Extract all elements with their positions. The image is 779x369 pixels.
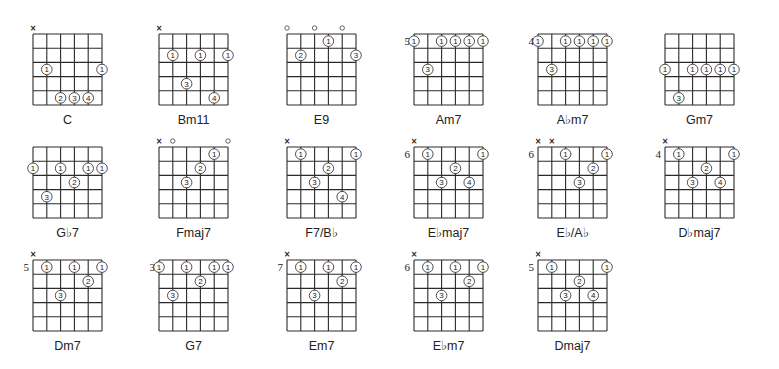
finger-marker: 2 — [296, 50, 307, 61]
finger-number: 3 — [72, 94, 77, 103]
finger-number: 1 — [72, 263, 77, 272]
fret-position-label: 5 — [529, 261, 535, 273]
fret-position-label: 6 — [529, 148, 535, 160]
finger-number: 2 — [299, 51, 304, 60]
finger-marker: 3 — [168, 290, 179, 301]
finger-marker: 2 — [195, 276, 206, 287]
finger-number: 3 — [426, 65, 431, 74]
finger-marker: 2 — [55, 93, 66, 104]
finger-marker: 3 — [181, 78, 192, 89]
finger-number: 1 — [467, 37, 472, 46]
finger-number: 1 — [536, 37, 541, 46]
finger-marker: 1 — [154, 262, 165, 273]
chord-name: C — [63, 113, 72, 127]
muted-string-icon: × — [156, 137, 163, 146]
finger-marker: 1 — [423, 149, 434, 160]
finger-number: 1 — [45, 263, 50, 272]
muted-string-icon: × — [535, 250, 542, 259]
finger-number: 3 — [577, 178, 582, 187]
finger-number: 1 — [563, 150, 568, 159]
fret-position-label: 5 — [24, 261, 30, 273]
chord-diagram: 6×11234E♭maj7 — [405, 137, 489, 241]
muted-string-icon: × — [662, 137, 669, 146]
finger-number: 3 — [439, 178, 444, 187]
chord-name: E♭maj7 — [428, 226, 469, 240]
finger-marker: 4 — [464, 177, 475, 188]
finger-marker: 3 — [309, 290, 320, 301]
finger-number: 1 — [718, 65, 723, 74]
finger-number: 3 — [184, 80, 189, 89]
finger-marker: 1 — [195, 50, 206, 61]
muted-string-icon: × — [284, 137, 291, 146]
chord-name: E♭m7 — [433, 339, 465, 353]
chord-diagram: 7×11123Em7 — [278, 250, 362, 354]
finger-number: 4 — [86, 94, 91, 103]
open-string-icon — [226, 139, 230, 143]
finger-marker: 1 — [28, 163, 39, 174]
finger-marker: 1 — [323, 36, 334, 47]
finger-marker: 2 — [323, 163, 334, 174]
finger-marker: 1 — [560, 149, 571, 160]
finger-marker: 3 — [574, 177, 585, 188]
muted-string-icon: × — [411, 250, 418, 259]
finger-number: 1 — [157, 263, 162, 272]
finger-number: 2 — [340, 277, 345, 286]
finger-number: 4 — [591, 291, 596, 300]
finger-marker: 1 — [209, 262, 220, 273]
finger-marker: 2 — [69, 177, 80, 188]
chord-diagram: 3111123G7 — [150, 260, 234, 353]
finger-number: 1 — [100, 164, 105, 173]
finger-marker: 2 — [574, 276, 585, 287]
finger-marker: 2 — [450, 163, 461, 174]
finger-marker: 1 — [478, 262, 489, 273]
finger-marker: 1 — [97, 262, 108, 273]
chord-chart-sheet: ×11234C×11134Bm11123E95111113Am74111113A… — [0, 0, 779, 369]
finger-number: 4 — [467, 178, 472, 187]
finger-number: 1 — [677, 150, 682, 159]
finger-number: 3 — [45, 193, 50, 202]
finger-number: 1 — [426, 263, 431, 272]
finger-marker: 3 — [674, 93, 685, 104]
finger-marker: 3 — [436, 290, 447, 301]
finger-number: 4 — [212, 94, 217, 103]
muted-string-icon: × — [548, 137, 555, 146]
muted-string-icon: × — [30, 24, 37, 33]
chord-name: G7 — [185, 339, 202, 353]
chord-diagram: ×11234C — [30, 24, 108, 128]
finger-marker: 1 — [588, 36, 599, 47]
finger-marker: 1 — [97, 64, 108, 75]
finger-number: 1 — [299, 150, 304, 159]
finger-number: 1 — [550, 263, 555, 272]
finger-number: 1 — [226, 51, 231, 60]
finger-number: 1 — [86, 164, 91, 173]
finger-number: 2 — [198, 277, 203, 286]
open-string-icon — [340, 26, 344, 30]
finger-marker: 1 — [423, 262, 434, 273]
finger-marker: 1 — [181, 262, 192, 273]
finger-marker: 1 — [478, 36, 489, 47]
finger-number: 1 — [453, 37, 458, 46]
muted-string-icon: × — [30, 250, 37, 259]
finger-marker: 1 — [464, 36, 475, 47]
finger-marker: 1 — [602, 36, 613, 47]
chord-name: Fmaj7 — [176, 226, 211, 240]
finger-number: 1 — [577, 37, 582, 46]
chord-diagram: ×123Fmaj7 — [156, 137, 231, 241]
finger-number: 1 — [732, 150, 737, 159]
finger-number: 2 — [326, 164, 331, 173]
finger-marker: 2 — [337, 276, 348, 287]
finger-number: 1 — [481, 263, 486, 272]
finger-number: 2 — [58, 94, 63, 103]
finger-marker: 1 — [351, 262, 362, 273]
finger-number: 3 — [171, 291, 176, 300]
finger-marker: 1 — [560, 36, 571, 47]
muted-string-icon: × — [156, 24, 163, 33]
finger-number: 3 — [184, 178, 189, 187]
finger-number: 3 — [354, 51, 359, 60]
finger-number: 1 — [326, 263, 331, 272]
chord-name: G♭7 — [56, 226, 79, 240]
finger-number: 3 — [439, 291, 444, 300]
finger-number: 3 — [563, 291, 568, 300]
finger-number: 1 — [100, 263, 105, 272]
finger-marker: 3 — [69, 93, 80, 104]
